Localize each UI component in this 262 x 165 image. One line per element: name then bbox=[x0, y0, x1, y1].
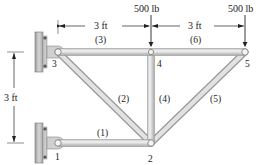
left-arrow-icon bbox=[152, 24, 158, 28]
member-3 bbox=[58, 49, 151, 56]
left-arrow-icon bbox=[59, 24, 65, 28]
bolt-icon bbox=[43, 36, 46, 39]
right-arrow-icon bbox=[238, 24, 244, 28]
load-label-4: 500 lb bbox=[134, 3, 159, 14]
member-label-3: (3) bbox=[95, 35, 106, 46]
joint-1-pin bbox=[55, 140, 61, 146]
member-label-6: (6) bbox=[190, 35, 201, 46]
dimension-span-4-5: 3 ft bbox=[152, 20, 244, 31]
dimension-label: 3 ft bbox=[94, 20, 108, 31]
member-label-1: (1) bbox=[97, 128, 108, 139]
joint-label-3: 3 bbox=[52, 59, 57, 69]
joint-label-4: 4 bbox=[157, 59, 162, 69]
dimension-span-3-4: 3 ft bbox=[58, 20, 150, 34]
joint-4-pin bbox=[148, 49, 153, 54]
member-label-2: (2) bbox=[118, 94, 129, 105]
joint-label-5: 5 bbox=[245, 59, 250, 69]
member-4 bbox=[148, 52, 155, 143]
truss-diagram: 3 4 5 1 2 (1) (2) (3) (4) (5) (6) 500 lb… bbox=[0, 0, 262, 165]
joint-label-2: 2 bbox=[148, 154, 153, 164]
member-6 bbox=[151, 49, 245, 56]
dimension-height-1-3: 3 ft bbox=[4, 52, 24, 143]
joint-5-pin bbox=[242, 49, 248, 55]
member-label-4: (4) bbox=[159, 94, 170, 105]
member-label-5: (5) bbox=[210, 94, 221, 105]
bolt-icon bbox=[43, 127, 46, 130]
dimension-label: 3 ft bbox=[4, 92, 18, 103]
bolt-icon bbox=[43, 64, 46, 67]
right-arrow-icon bbox=[144, 24, 150, 28]
up-arrow-icon bbox=[12, 53, 16, 59]
load-joint-4: 500 lb bbox=[134, 3, 159, 46]
bolt-icon bbox=[43, 155, 46, 158]
joint-label-1: 1 bbox=[55, 152, 60, 162]
joint-3-pin bbox=[55, 49, 61, 55]
down-arrow-icon bbox=[12, 136, 16, 142]
member-1 bbox=[58, 140, 151, 147]
joint-2-pin bbox=[148, 140, 154, 146]
load-joint-5: 500 lb bbox=[228, 3, 253, 46]
load-label-5: 500 lb bbox=[228, 3, 253, 14]
dimension-label: 3 ft bbox=[188, 20, 202, 31]
